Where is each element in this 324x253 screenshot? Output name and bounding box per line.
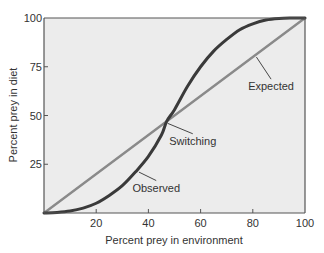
y-tick-label: 25: [30, 158, 42, 170]
chart: 255075100 20406080100 ExpectedSwitchingO…: [0, 0, 324, 253]
y-tick-label: 50: [30, 110, 42, 122]
x-tick-label: 60: [194, 217, 206, 229]
annotation-switching: Switching: [169, 135, 216, 147]
x-tick-label: 100: [296, 217, 314, 229]
y-tick-label: 75: [30, 61, 42, 73]
x-tick-label: 80: [247, 217, 259, 229]
x-tick-label: 20: [90, 217, 102, 229]
annotation-observed: Observed: [132, 182, 180, 194]
x-axis-label: Percent prey in environment: [105, 234, 243, 246]
annotation-expected: Expected: [248, 80, 294, 92]
y-tick-label: 100: [24, 12, 42, 24]
y-axis-label: Percent prey in diet: [7, 68, 19, 163]
x-tick-label: 40: [142, 217, 154, 229]
